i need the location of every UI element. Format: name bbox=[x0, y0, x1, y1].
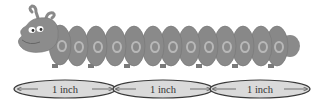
caterpillar-head bbox=[18, 6, 58, 52]
ruler-label: 1 inch bbox=[52, 84, 79, 95]
ruler-2: 1 inch bbox=[113, 80, 213, 98]
ruler-label: 1 inch bbox=[150, 84, 177, 95]
segment bbox=[123, 26, 145, 66]
segment bbox=[104, 26, 126, 66]
caterpillar-measurement-diagram: 1 inch 1 inch 1 inch bbox=[0, 0, 323, 107]
antenna-left bbox=[30, 6, 38, 18]
caterpillar bbox=[18, 6, 300, 68]
caterpillar-body-segments bbox=[49, 25, 288, 66]
segment bbox=[85, 26, 107, 66]
ruler-1: 1 inch bbox=[14, 80, 116, 98]
ruler-3: 1 inch bbox=[210, 80, 310, 98]
antenna-right bbox=[46, 13, 54, 18]
ruler-label: 1 inch bbox=[247, 84, 274, 95]
